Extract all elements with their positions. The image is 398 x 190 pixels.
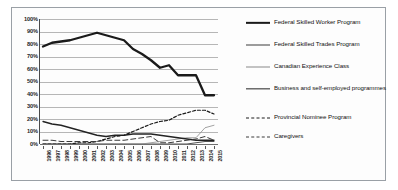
legend-label: Caregivers	[274, 132, 303, 140]
x-axis-labels: 1996199719981999200020012002200320042005…	[39, 146, 218, 182]
x-tick-label: 2007	[145, 150, 151, 162]
x-tick	[97, 146, 98, 149]
x-tick-label: 2010	[172, 150, 178, 162]
x-tick	[205, 146, 206, 149]
x-tick-label: 1998	[64, 150, 70, 162]
y-tick-label: 80%	[27, 41, 38, 48]
y-tick-label: 0%	[30, 141, 38, 148]
x-tick-label: 2012	[190, 150, 196, 162]
x-tick-label: 2006	[136, 150, 142, 162]
legend-swatch-icon	[246, 114, 270, 122]
legend-label: Federal Skilled Trades Program	[274, 40, 360, 48]
legend-label: Canadian Experience Class	[274, 62, 349, 70]
x-tick-label: 2004	[118, 150, 124, 162]
y-tick-label: 30%	[27, 103, 38, 110]
x-tick-label: 2014	[208, 150, 214, 162]
legend-swatch-icon	[246, 41, 270, 49]
legend-swatch-icon	[246, 85, 270, 93]
x-tick	[79, 146, 80, 149]
x-tick	[52, 146, 53, 149]
legend-item[interactable]: Federal Skilled Trades Program	[246, 40, 386, 49]
x-tick	[43, 146, 44, 149]
y-tick-label: 50%	[27, 78, 38, 85]
x-tick-label: 2001	[91, 150, 97, 162]
legend-label: Business and self-employed programmes	[274, 84, 386, 92]
chart-figure: 0%10%20%30%40%50%60%70%80%90%100% 199619…	[0, 0, 398, 190]
x-tick-label: 2002	[100, 150, 106, 162]
x-tick-label: 2013	[199, 150, 205, 162]
x-tick-label: 2003	[109, 150, 115, 162]
x-tick	[115, 146, 116, 149]
x-tick-label: 2000	[82, 150, 88, 162]
x-tick	[214, 146, 215, 149]
legend-swatch-icon	[246, 19, 270, 27]
x-tick-label: 1996	[46, 150, 52, 162]
y-tick-label: 70%	[27, 53, 38, 60]
series-line	[43, 33, 214, 96]
legend-swatch-icon	[246, 63, 270, 71]
legend-item[interactable]: Caregivers	[246, 132, 386, 141]
x-tick-label: 2011	[181, 150, 187, 161]
legend-item[interactable]: Federal Skilled Worker Program	[246, 18, 386, 27]
x-tick	[160, 146, 161, 149]
legend-label: Provincial Nominee Program	[274, 113, 351, 121]
series-layer	[39, 19, 218, 144]
x-tick	[196, 146, 197, 149]
legend-label: Federal Skilled Worker Program	[274, 18, 360, 26]
gridline	[40, 144, 218, 145]
x-tick-label: 1999	[73, 150, 79, 162]
x-tick	[151, 146, 152, 149]
legend-item[interactable]: Canadian Experience Class	[246, 62, 386, 71]
x-tick-label: 2015	[217, 150, 223, 162]
y-axis-labels: 0%10%20%30%40%50%60%70%80%90%100%	[11, 12, 38, 151]
x-tick	[142, 146, 143, 149]
x-tick	[133, 146, 134, 149]
x-tick	[61, 146, 62, 149]
x-tick-label: 2005	[127, 150, 133, 162]
x-tick-label: 2008	[154, 150, 160, 162]
x-tick-label: 2009	[163, 150, 169, 162]
x-tick	[178, 146, 179, 149]
y-tick-label: 10%	[27, 128, 38, 135]
y-tick-label: 40%	[27, 91, 38, 98]
x-tick	[187, 146, 188, 149]
legend-item[interactable]: Business and self-employed programmes	[246, 84, 386, 93]
x-tick	[169, 146, 170, 149]
chart-svg	[39, 19, 218, 144]
y-tick-label: 20%	[27, 116, 38, 123]
x-tick	[88, 146, 89, 149]
legend-swatch-icon	[246, 133, 270, 141]
x-tick	[70, 146, 71, 149]
chart-legend: Federal Skilled Worker ProgramFederal Sk…	[246, 18, 386, 148]
y-tick-label: 90%	[27, 28, 38, 35]
legend-item[interactable]: Provincial Nominee Program	[246, 113, 386, 122]
x-tick-label: 1997	[55, 150, 61, 162]
y-tick-label: 100%	[24, 16, 38, 23]
x-tick	[106, 146, 107, 149]
x-tick	[124, 146, 125, 149]
y-tick-label: 60%	[27, 66, 38, 73]
